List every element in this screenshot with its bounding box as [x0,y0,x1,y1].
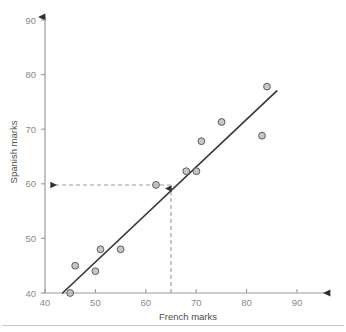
y-tick-label: 90 [25,15,36,26]
scatter-chart: 40 50 60 70 80 90 40 50 60 70 80 90 Fren… [0,0,346,332]
data-point [193,168,200,175]
construction-guides [51,185,171,293]
y-tick-label: 40 [25,288,36,299]
data-point [92,268,99,275]
x-axis-title: French marks [159,311,217,322]
data-point [117,246,124,253]
axes [45,17,330,293]
data-point [259,132,266,139]
data-point [264,83,271,90]
y-tick-label: 50 [25,233,36,244]
data-point [183,168,190,175]
y-tick-label: 70 [25,124,36,135]
x-tick-label: 50 [90,297,101,308]
y-axis-title: Spanish marks [8,120,19,183]
data-point [153,182,160,189]
data-point [67,290,74,297]
data-point [72,262,79,269]
data-point [218,119,225,126]
x-tick-label: 70 [191,297,202,308]
y-axis-tick-labels: 40 50 60 70 80 90 [25,15,36,299]
x-tick-label: 60 [141,297,152,308]
y-tick-label: 80 [25,69,36,80]
data-points [67,83,271,296]
x-tick-label: 80 [241,297,252,308]
data-point [97,246,104,253]
chart-svg: 40 50 60 70 80 90 40 50 60 70 80 90 Fren… [0,0,346,332]
x-tick-label: 40 [40,297,51,308]
y-tick-label: 60 [25,178,36,189]
data-point [198,138,205,145]
x-axis-tick-labels: 40 50 60 70 80 90 [40,297,303,308]
line-of-best-fit [63,91,277,293]
x-tick-label: 90 [292,297,303,308]
